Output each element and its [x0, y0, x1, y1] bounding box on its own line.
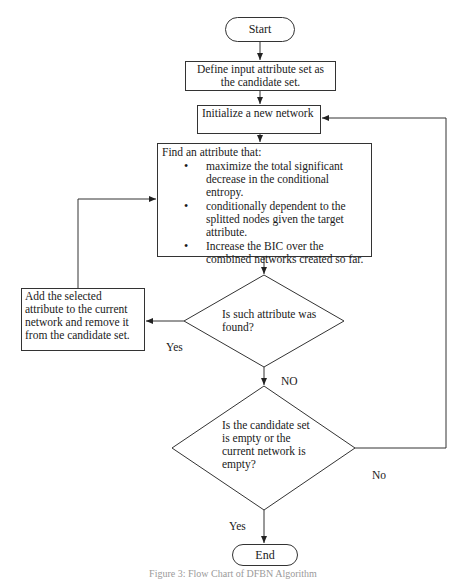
decision-found-text: Is such attribute was found?	[222, 308, 318, 334]
find-step-title: Find an attribute that:	[162, 146, 367, 159]
criteria-item: Increase the BIC over the combined netwo…	[206, 240, 367, 266]
initialize-network-step: Initialize a new network	[197, 105, 321, 134]
figure-caption: Figure 3: Flow Chart of DFBN Algorithm	[0, 568, 466, 579]
label-empty-yes: Yes	[229, 520, 246, 533]
add-step-text: Add the selected attribute to the curren…	[25, 290, 130, 341]
define-step-text: Define input attribute set as the candid…	[197, 63, 324, 88]
arrow-add-to-find	[78, 199, 156, 288]
label-empty-no: No	[372, 469, 386, 482]
start-label: Start	[249, 23, 272, 36]
end-terminal: End	[232, 544, 298, 566]
start-terminal: Start	[225, 17, 295, 42]
init-step-text: Initialize a new network	[202, 107, 313, 119]
criteria-list: maximize the total significant decrease …	[162, 160, 367, 266]
label-found-no: NO	[281, 375, 298, 388]
criteria-item: maximize the total significant decrease …	[206, 160, 367, 199]
end-label: End	[255, 549, 274, 562]
decision-empty-text: Is the candidate set is empty or the cur…	[222, 419, 314, 471]
find-attribute-step: Find an attribute that: maximize the tot…	[157, 143, 372, 257]
define-candidate-set-step: Define input attribute set as the candid…	[185, 61, 336, 91]
label-found-yes: Yes	[166, 341, 183, 354]
add-attribute-step: Add the selected attribute to the curren…	[21, 288, 145, 351]
criteria-item: conditionally dependent to the splitted …	[206, 200, 367, 239]
